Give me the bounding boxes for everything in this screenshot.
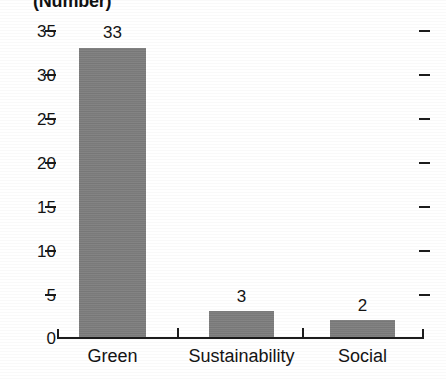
y-tick-dash-right — [419, 74, 430, 76]
bar-green — [79, 48, 146, 337]
y-tick-dash-right — [419, 250, 430, 252]
y-tick-dash-left — [45, 118, 56, 120]
x-label-sustainability: Sustainability — [181, 347, 302, 367]
x-label-social: Social — [312, 347, 413, 367]
plot-area: 35 30 25 20 15 10 5 0 33 3 2 — [0, 0, 446, 379]
x-axis-line — [57, 337, 424, 339]
x-label-green: Green — [62, 347, 163, 367]
y-tick-dash-right — [419, 118, 430, 120]
y-tick-label: 0 — [0, 330, 56, 347]
y-tick-dash-right — [419, 30, 430, 32]
bar-chart: (Number) 35 30 25 20 15 10 5 0 33 3 — [0, 0, 446, 379]
y-tick-dash-left — [45, 250, 56, 252]
y-tick-dash-left — [45, 30, 56, 32]
bar-value-label: 3 — [209, 288, 274, 305]
y-tick-dash-left — [45, 74, 56, 76]
bar-social — [330, 320, 395, 337]
x-axis-tick — [177, 328, 179, 337]
x-axis-tick — [302, 328, 304, 337]
y-tick-dash-right — [419, 162, 430, 164]
y-tick-dash-right — [419, 206, 430, 208]
y-tick-dash-left — [45, 206, 56, 208]
y-tick-dash-left — [45, 294, 56, 296]
y-axis-right-cap — [422, 329, 424, 338]
y-tick-dash-right — [419, 294, 430, 296]
y-axis-left-cap — [57, 329, 59, 338]
bar-value-label: 2 — [330, 297, 395, 314]
y-tick-dash-left — [45, 162, 56, 164]
bar-value-label: 33 — [79, 24, 146, 41]
bar-sustainability — [209, 311, 274, 337]
